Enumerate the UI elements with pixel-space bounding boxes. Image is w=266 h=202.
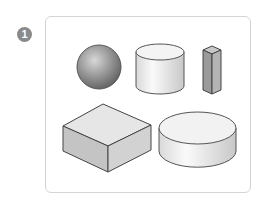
shapes-diagram: [0, 0, 266, 202]
prism-tall-shape: [203, 46, 221, 94]
sphere-shape: [77, 45, 121, 89]
cylinder-tall-shape: [136, 44, 184, 94]
cuboid-shape: [63, 104, 151, 172]
cylinder-flat-shape: [159, 112, 236, 167]
